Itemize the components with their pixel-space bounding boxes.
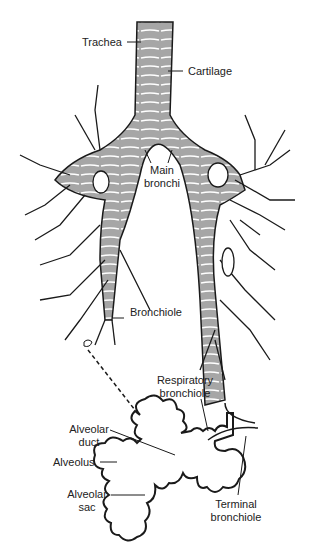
- label-trachea: Trachea: [82, 36, 122, 48]
- label-respiratory-bronchiole-1: Respiratory: [155, 374, 215, 386]
- label-alveolar-sac-1: Alveolar: [64, 488, 110, 500]
- zoom-connector-line: [88, 350, 135, 410]
- label-main-bronchi-2: bronchi: [140, 177, 184, 189]
- label-bronchiole: Bronchiole: [130, 306, 182, 318]
- label-terminal-bronchiole-2: bronchiole: [208, 511, 264, 523]
- label-alveolar-duct-2: duct: [66, 436, 112, 448]
- label-terminal-bronchiole-1: Terminal: [208, 498, 264, 510]
- label-alveolar-sac-2: sac: [64, 501, 110, 513]
- label-respiratory-bronchiole-2: bronchiole: [155, 387, 215, 399]
- label-alveolar-duct-1: Alveolar: [66, 423, 112, 435]
- label-alveolus: Alveolus: [53, 456, 95, 468]
- label-cartilage: Cartilage: [188, 65, 232, 77]
- bronchial-tree-illustration: [0, 0, 313, 551]
- label-main-bronchi-1: Main: [144, 164, 180, 176]
